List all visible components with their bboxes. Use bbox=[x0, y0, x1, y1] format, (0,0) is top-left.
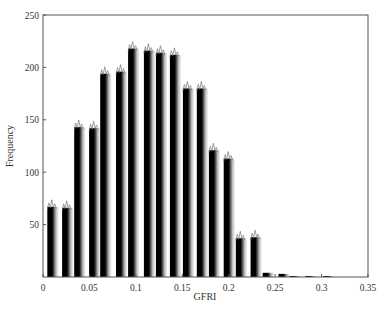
x-tick-label: 0.25 bbox=[267, 283, 284, 293]
x-tick-label: 0.15 bbox=[174, 283, 191, 293]
x-tick-label: 0.3 bbox=[316, 283, 328, 293]
histogram-bar bbox=[156, 53, 168, 277]
histogram-chart: 50100150200250 00.050.10.150.20.250.30.3… bbox=[0, 0, 384, 314]
histogram-bar bbox=[128, 49, 140, 278]
y-tick-label: 250 bbox=[25, 11, 40, 21]
histogram-bar bbox=[47, 207, 59, 277]
histogram-bar bbox=[197, 88, 209, 277]
histogram-bar bbox=[89, 128, 101, 277]
y-axis-label: Frequency bbox=[4, 125, 15, 167]
histogram-bar bbox=[224, 159, 236, 277]
bars-group bbox=[47, 42, 334, 277]
x-tick-label: 0 bbox=[41, 283, 46, 293]
histogram-bar bbox=[144, 51, 156, 277]
histogram-bar bbox=[236, 238, 248, 277]
histogram-bar bbox=[62, 208, 74, 277]
histogram-bar bbox=[183, 88, 195, 277]
x-tick-label: 0.2 bbox=[223, 283, 235, 293]
histogram-bar bbox=[263, 273, 275, 277]
histogram-bar bbox=[74, 127, 86, 277]
y-tick-label: 50 bbox=[30, 220, 40, 230]
x-tick-label: 0.1 bbox=[130, 283, 142, 293]
histogram-bar bbox=[100, 74, 112, 277]
x-axis-label: GFRI bbox=[194, 291, 217, 302]
histogram-bar bbox=[116, 72, 128, 277]
y-tick-label: 150 bbox=[25, 115, 40, 125]
y-tick-label: 200 bbox=[25, 63, 40, 73]
histogram-bar bbox=[170, 55, 182, 277]
x-tick-label: 0.35 bbox=[360, 283, 377, 293]
histogram-bar bbox=[251, 237, 263, 277]
histogram-bar bbox=[209, 150, 221, 277]
y-tick-label: 100 bbox=[25, 168, 40, 178]
x-tick-label: 0.05 bbox=[81, 283, 98, 293]
